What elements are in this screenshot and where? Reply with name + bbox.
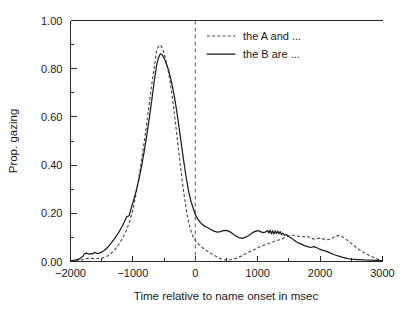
y-axis-title: Prop. gazing <box>7 109 19 174</box>
x-tick-label: −1000 <box>117 267 148 279</box>
x-tick-label: 3000 <box>370 267 394 279</box>
figure-container: −2000−10000100020003000 0.000.200.400.60… <box>0 0 417 309</box>
x-axis-title: Time relative to name onset in msec <box>134 290 319 302</box>
y-tick-label: 0.40 <box>41 159 62 171</box>
y-tick-label: 0.80 <box>41 63 62 75</box>
x-tick-label: 1000 <box>245 267 269 279</box>
x-tick-label: −2000 <box>55 267 86 279</box>
y-tick-label: 0.60 <box>41 111 62 123</box>
legend-label-a: the A and ... <box>243 30 301 42</box>
y-tick-label: 0.00 <box>41 256 62 268</box>
gaze-proportion-line-chart: −2000−10000100020003000 0.000.200.400.60… <box>0 0 417 309</box>
y-tick-label: 1.00 <box>41 15 62 27</box>
plot-background <box>0 0 417 309</box>
legend-label-b: the B are ... <box>243 48 300 60</box>
x-tick-label: 2000 <box>308 267 332 279</box>
y-tick-label: 0.20 <box>41 207 62 219</box>
x-tick-label: 0 <box>192 267 198 279</box>
